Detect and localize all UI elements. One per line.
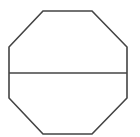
diagram-canvas [0, 0, 140, 137]
octagon-diagram [0, 0, 140, 137]
